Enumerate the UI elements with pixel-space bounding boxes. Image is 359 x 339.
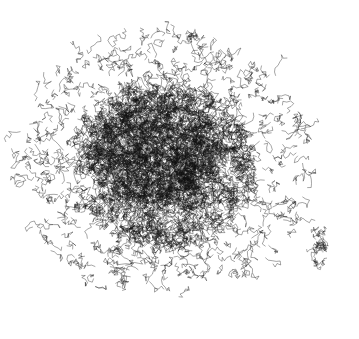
wireframe-molecule: [0, 0, 359, 339]
molecule-render: [0, 0, 359, 339]
